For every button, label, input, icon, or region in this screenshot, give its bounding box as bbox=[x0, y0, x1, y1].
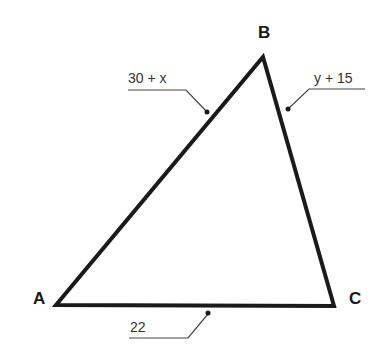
leader-dot-ac bbox=[206, 311, 211, 316]
side-label-ac: 22 bbox=[130, 319, 146, 335]
triangle-abc bbox=[56, 57, 334, 306]
triangle-diagram: A B C 30 + x y + 15 22 bbox=[0, 0, 381, 357]
leader-line-bc bbox=[288, 89, 365, 109]
leader-dot-bc bbox=[286, 107, 291, 112]
leader-line-ab bbox=[128, 90, 207, 112]
leader-dot-ab bbox=[205, 110, 210, 115]
vertex-label-b: B bbox=[258, 23, 270, 42]
vertex-label-a: A bbox=[33, 289, 45, 308]
vertex-label-c: C bbox=[349, 289, 361, 308]
side-label-ab: 30 + x bbox=[128, 70, 167, 86]
side-label-bc: y + 15 bbox=[314, 70, 353, 86]
